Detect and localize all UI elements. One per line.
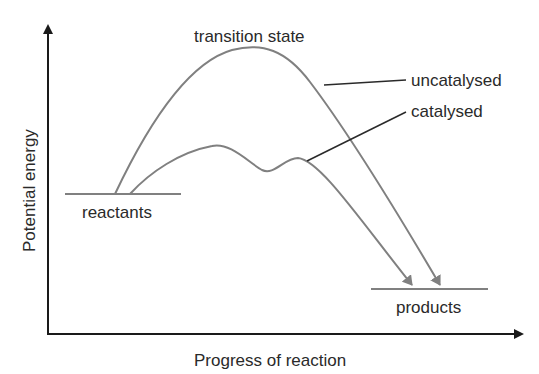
reactants-label: reactants: [82, 203, 152, 222]
x-axis-label: Progress of reaction: [194, 351, 346, 370]
uncatalysed-label: uncatalysed: [411, 71, 502, 90]
catalysed-leader: [307, 112, 406, 161]
uncatalysed-leader: [324, 80, 406, 85]
energy-profile-diagram: transition state uncatalysed catalysed r…: [0, 0, 539, 374]
products-label: products: [396, 298, 461, 317]
y-axis-label: Potential energy: [20, 129, 39, 252]
catalysed-curve: [130, 145, 412, 285]
catalysed-label: catalysed: [411, 102, 483, 121]
transition-state-label: transition state: [194, 27, 305, 46]
